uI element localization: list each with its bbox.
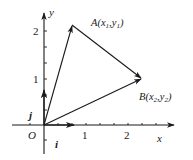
- vector-OA: [44, 26, 72, 125]
- vector-diagram: y x O 2 1 1 2 j i A(x1,y1) B(x2,y2): [0, 0, 193, 160]
- unit-vector-j-label: j: [27, 109, 33, 121]
- x-axis: [12, 123, 174, 125]
- vector-AB: [72, 25, 141, 78]
- y-axis-label: y: [48, 6, 54, 18]
- y-axis: [44, 13, 47, 154]
- x-axis-label: x: [156, 132, 162, 144]
- unit-vector-i-label: i: [55, 138, 59, 150]
- y-tick-label-2: 2: [33, 25, 39, 37]
- x-tick-label-2: 2: [124, 129, 130, 141]
- y-tick-label-1: 1: [33, 73, 39, 85]
- point-B-label: B(x2,y2): [139, 91, 172, 104]
- x-tick-label-1: 1: [82, 129, 88, 141]
- point-A-label: A(x1,y1): [90, 17, 124, 30]
- vector-OB: [44, 79, 141, 125]
- origin-label: O: [28, 129, 36, 141]
